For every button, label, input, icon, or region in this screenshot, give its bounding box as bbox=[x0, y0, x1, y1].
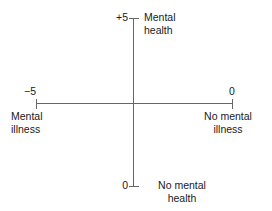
mental-health-quadrant-diagram: +5 0 −5 0 Mental health No mental health… bbox=[0, 0, 272, 211]
axes-graphic bbox=[0, 0, 272, 211]
label-mental-health: Mental health bbox=[144, 11, 224, 36]
label-no-mental-illness: No mental illness bbox=[190, 110, 266, 135]
horizontal-axis-left-tick-label: −5 bbox=[18, 86, 42, 97]
vertical-axis-top-tick-label: +5 bbox=[106, 12, 128, 23]
label-mental-illness: Mental illness bbox=[11, 110, 87, 135]
vertical-axis-bottom-tick-label: 0 bbox=[106, 180, 128, 191]
horizontal-axis-right-tick-label: 0 bbox=[221, 86, 243, 97]
label-no-mental-health: No mental health bbox=[140, 179, 224, 204]
